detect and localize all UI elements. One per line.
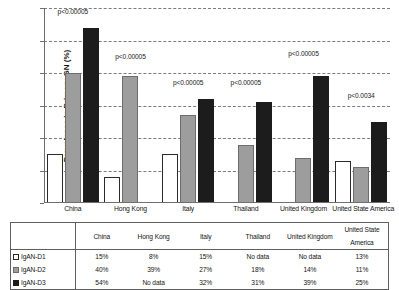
legend-label: IgAN-D3 [21, 276, 46, 289]
table-cell: 18% [232, 263, 284, 276]
table-header-cell: Italy [180, 223, 232, 250]
table-cell: 54% [76, 276, 128, 289]
p-value-annotation: p<0.00005 [115, 53, 145, 60]
bar-igan-d3-china [83, 28, 99, 204]
table-cell: 11% [336, 263, 388, 276]
bar-igan-d3-italy [198, 99, 214, 203]
table-cell: 25% [336, 276, 388, 289]
bar-group [102, 8, 160, 203]
x-axis-label-china: China [44, 205, 102, 212]
legend-swatch-icon [13, 280, 19, 286]
table-row: IgAN-D115%8%15%No dataNo data13% [11, 250, 388, 264]
table-header-cell: China [76, 223, 128, 250]
table-header-cell: United Kingdom [284, 223, 336, 250]
bar-igan-d2-united-kingdom [295, 158, 311, 204]
bar-group [217, 8, 275, 203]
bar-igan-d2-thailand [238, 145, 254, 204]
x-axis-label-united-state-america: United State America [332, 205, 390, 212]
bar-group [44, 8, 102, 203]
bar-igan-d1-hong-kong [104, 177, 120, 203]
y-axis-line [44, 8, 45, 203]
bar-igan-d2-china [65, 73, 81, 203]
table-header-cell: Thailand [232, 223, 284, 250]
bar-igan-d2-hong-kong [122, 76, 138, 203]
p-value-annotation: p<0.00005 [231, 79, 261, 86]
x-axis-category-labels: ChinaHong KongItalyThailandUnited Kingdo… [44, 205, 390, 218]
table-cell: 14% [284, 263, 336, 276]
table-cell: 15% [180, 250, 232, 264]
bar-igan-d1-united-state-america [335, 161, 351, 203]
legend-label: IgAN-D1 [21, 250, 46, 263]
legend-key-wrap: IgAN-D1 [13, 250, 75, 263]
bar-group [332, 8, 390, 203]
x-axis-label-italy: Italy [159, 205, 217, 212]
bar-igan-d3-thailand [256, 102, 272, 203]
table-header-cell: United State America [336, 223, 388, 250]
table-cell: 32% [180, 276, 232, 289]
legend-key-igan-d2: IgAN-D2 [11, 263, 76, 276]
table-cell: 8% [128, 250, 180, 264]
plot-area: Prevalence in Primary GN (%) p<0.00005p<… [44, 8, 390, 203]
legend-key-igan-d1: IgAN-D1 [11, 250, 76, 264]
table-cell: No data [128, 276, 180, 289]
table-corner-cell [11, 223, 76, 250]
bar-igan-d1-china [47, 154, 63, 203]
bar-igan-d3-united-state-america [371, 122, 387, 203]
table-cell: 13% [336, 250, 388, 264]
table-cell: 39% [128, 263, 180, 276]
bar-group [275, 8, 333, 203]
table-cell: No data [232, 250, 284, 264]
bar-igan-d1-italy [162, 154, 178, 203]
x-axis-label-hong-kong: Hong Kong [102, 205, 160, 212]
table-row: IgAN-D354%No data32%31%39%25% [11, 276, 388, 289]
p-value-annotation: p<0.00005 [173, 79, 203, 86]
legend-data-table: ChinaHong KongItalyThailandUnited Kingdo… [10, 222, 389, 290]
x-axis-label-thailand: Thailand [217, 205, 275, 212]
table-header-row: ChinaHong KongItalyThailandUnited Kingdo… [11, 223, 388, 250]
p-value-annotation: p<0.0034 [348, 92, 375, 99]
table-cell: 39% [284, 276, 336, 289]
x-axis-line [44, 202, 390, 203]
bar-group [159, 8, 217, 203]
table-header-cell: Hong Kong [128, 223, 180, 250]
table-cell: 40% [76, 263, 128, 276]
plot-inner: p<0.00005p<0.00005p<0.00005p<0.00005p<0.… [44, 8, 390, 203]
table-row: IgAN-D240%39%27%18%14%11% [11, 263, 388, 276]
legend-key-igan-d3: IgAN-D3 [11, 276, 76, 289]
legend-label: IgAN-D2 [21, 263, 46, 276]
p-value-annotation: p<0.00005 [58, 8, 88, 15]
p-value-annotation: p<0.00005 [288, 50, 318, 57]
table-body: ChinaHong KongItalyThailandUnited Kingdo… [11, 223, 388, 289]
bar-igan-d2-italy [180, 115, 196, 203]
table-cell: 31% [232, 276, 284, 289]
x-axis-label-united-kingdom: United Kingdom [275, 205, 333, 212]
bar-igan-d3-united-kingdom [313, 76, 329, 203]
table-cell: 15% [76, 250, 128, 264]
legend-key-wrap: IgAN-D2 [13, 263, 75, 276]
y-tick-mark [40, 203, 44, 204]
table-cell: No data [284, 250, 336, 264]
data-table: ChinaHong KongItalyThailandUnited Kingdo… [11, 223, 388, 289]
legend-swatch-icon [13, 267, 19, 273]
bar-igan-d2-united-state-america [353, 167, 369, 203]
legend-swatch-icon [13, 254, 19, 260]
legend-key-wrap: IgAN-D3 [13, 276, 75, 289]
table-cell: 27% [180, 263, 232, 276]
